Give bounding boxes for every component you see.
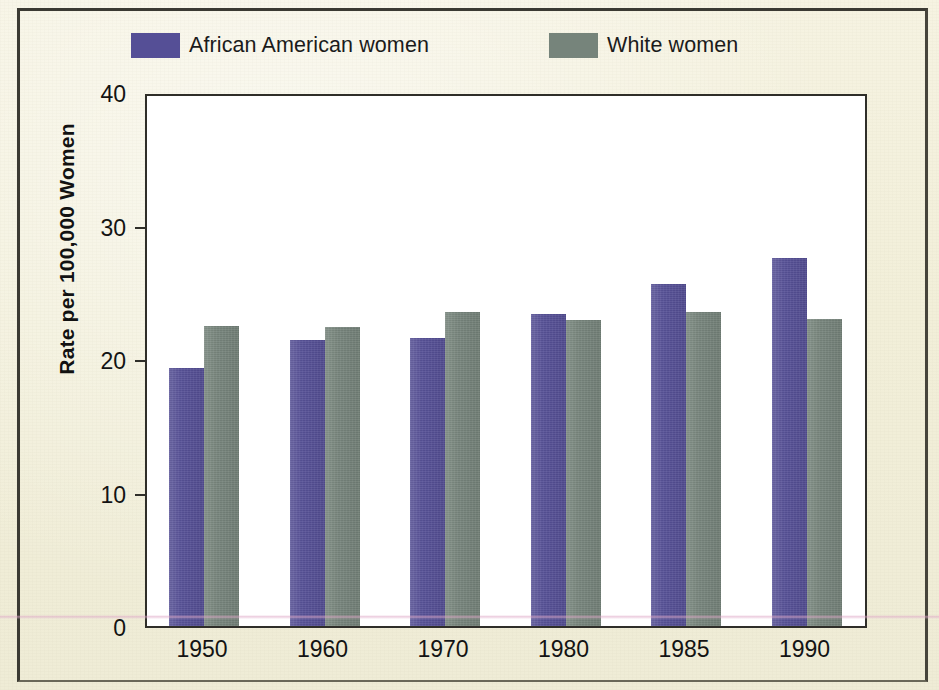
bar-texture bbox=[290, 340, 325, 626]
y-tick-mark-30 bbox=[135, 227, 147, 229]
bar-texture bbox=[686, 312, 721, 626]
y-tick-mark-20 bbox=[135, 360, 147, 362]
legend-swatch-white-women bbox=[549, 33, 598, 58]
y-tick-label-30: 30 bbox=[48, 214, 126, 241]
legend-label-white-women: White women bbox=[607, 33, 738, 58]
bar-1960-white-women bbox=[325, 327, 360, 626]
x-tick-label-1980: 1980 bbox=[538, 636, 589, 663]
x-tick-label-1990: 1990 bbox=[779, 636, 830, 663]
legend-item-african-american-women: African American women bbox=[131, 33, 429, 58]
bar-1990-white-women bbox=[807, 319, 842, 626]
y-tick-label-0: 0 bbox=[48, 615, 126, 642]
bar-texture bbox=[807, 319, 842, 626]
legend-item-white-women: White women bbox=[549, 33, 738, 58]
bar-1950-african-american-women bbox=[169, 368, 204, 626]
bar-1980-african-american-women bbox=[531, 314, 566, 626]
bar-1985-white-women bbox=[686, 312, 721, 626]
x-tick-label-1970: 1970 bbox=[417, 636, 468, 663]
bar-1950-white-women bbox=[204, 326, 239, 626]
y-tick-mark-10 bbox=[135, 494, 147, 496]
bar-texture bbox=[410, 338, 445, 626]
legend-label-african-american-women: African American women bbox=[189, 33, 429, 58]
bar-texture bbox=[325, 327, 360, 626]
bar-1970-white-women bbox=[445, 312, 480, 626]
plot-area bbox=[145, 94, 867, 628]
y-tick-label-10: 10 bbox=[48, 481, 126, 508]
y-axis-ticks: 010203040 bbox=[22, 0, 126, 690]
bar-1985-african-american-women bbox=[651, 284, 686, 626]
chart-figure: African American women White women Rate … bbox=[0, 0, 939, 690]
legend-swatch-african-american-women bbox=[131, 33, 180, 58]
x-tick-label-1985: 1985 bbox=[658, 636, 709, 663]
bar-texture bbox=[531, 314, 566, 626]
bar-texture bbox=[651, 284, 686, 626]
y-tick-label-20: 20 bbox=[48, 348, 126, 375]
bar-texture bbox=[772, 258, 807, 626]
bar-1960-african-american-women bbox=[290, 340, 325, 626]
bar-texture bbox=[445, 312, 480, 626]
bar-1990-african-american-women bbox=[772, 258, 807, 626]
bar-1970-african-american-women bbox=[410, 338, 445, 626]
chart-legend: African American women White women bbox=[131, 33, 738, 58]
bar-texture bbox=[566, 320, 601, 626]
bar-1980-white-women bbox=[566, 320, 601, 626]
bar-texture bbox=[169, 368, 204, 626]
y-tick-label-40: 40 bbox=[48, 81, 126, 108]
bar-texture bbox=[204, 326, 239, 626]
bars-container bbox=[147, 96, 865, 626]
x-tick-label-1950: 1950 bbox=[176, 636, 227, 663]
x-tick-label-1960: 1960 bbox=[297, 636, 348, 663]
